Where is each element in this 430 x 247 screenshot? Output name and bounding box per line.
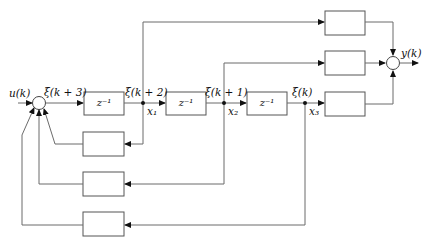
state-x3: x₃ [309, 106, 319, 117]
output-summing-junction [387, 57, 400, 70]
signal-xi-k: ξ(k) [292, 87, 312, 98]
state-x1: x₁ [147, 106, 157, 117]
feedforward-block-2 [325, 51, 365, 75]
node-x2 [222, 101, 226, 105]
state-x2: x₂ [228, 106, 238, 117]
node-x1 [141, 101, 145, 105]
block-diagram: u(k) ξ(k + 3) ξ(k + 2) ξ(k + 1) ξ(k) x₁ … [0, 0, 430, 247]
delay-block-3-label: z⁻¹ [247, 98, 287, 108]
feedback-block-1 [83, 132, 124, 156]
feedback-block-3 [83, 212, 124, 236]
node-x3 [303, 101, 307, 105]
input-label: u(k) [9, 88, 30, 99]
signal-xi-k2: ξ(k + 2) [125, 87, 168, 98]
feedback-block-2 [83, 172, 124, 196]
signal-xi-k3: ξ(k + 3) [44, 87, 87, 98]
feedforward-block-3 [325, 92, 365, 116]
delay-block-1-label: z⁻¹ [84, 98, 124, 108]
delay-block-2-label: z⁻¹ [166, 98, 206, 108]
signal-xi-k1: ξ(k + 1) [205, 87, 248, 98]
feedforward-block-1 [325, 11, 365, 35]
input-summing-junction [33, 97, 46, 110]
output-label: y(k) [401, 48, 422, 59]
